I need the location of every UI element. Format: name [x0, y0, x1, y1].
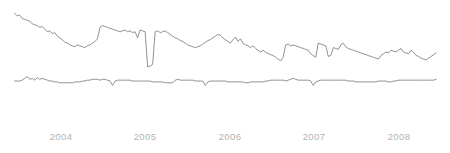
- x-tick-label-2004: 2004: [50, 131, 73, 142]
- sparkline-chart: 20042005200620072008: [0, 0, 450, 153]
- x-tick-label-2008: 2008: [388, 131, 411, 142]
- x-axis: 20042005200620072008: [0, 131, 450, 147]
- x-tick-label-2006: 2006: [219, 131, 242, 142]
- x-tick-label-2007: 2007: [303, 131, 326, 142]
- x-tick-label-2005: 2005: [134, 131, 157, 142]
